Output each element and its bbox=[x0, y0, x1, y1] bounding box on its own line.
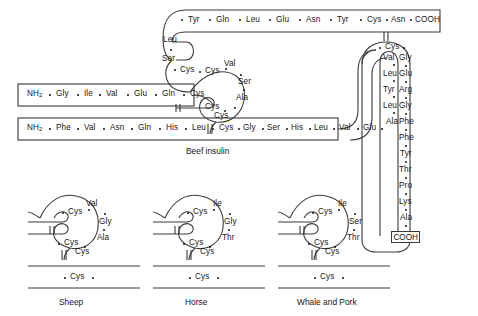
residue-loop-cys3: Cys bbox=[214, 112, 228, 120]
residue-a-cys2: Cys bbox=[190, 90, 204, 98]
residue-b-thr: Thr bbox=[399, 166, 412, 174]
insulin-structure-figure: Tyr Gln Leu Glu Asn Tyr Cys Asn COOH Leu… bbox=[0, 0, 478, 316]
residue-a-gln: Gln bbox=[216, 16, 229, 24]
whale-residue-cys4: Cys bbox=[320, 273, 334, 281]
residue-b-gly2: Gly bbox=[399, 54, 412, 62]
residue-a-tyr2: Tyr bbox=[337, 16, 349, 24]
residue-a-glu: Glu bbox=[276, 16, 289, 24]
residue-loop-ala: Ala bbox=[236, 94, 248, 102]
residue-loop-cys1: Cys bbox=[205, 67, 219, 75]
residue-b-gly3: Gly bbox=[399, 102, 412, 110]
residue-b-leu4: Leu bbox=[383, 70, 397, 78]
horse-residue-cys4: Cys bbox=[195, 273, 209, 281]
residue-b-tyr: Tyr bbox=[383, 86, 395, 94]
whale-residue-cys1: Cys bbox=[318, 208, 332, 216]
residue-a-leu-curve: Leu bbox=[163, 36, 177, 44]
whale-residue-var1: Ile bbox=[338, 200, 347, 208]
residue-b-pro: Pro bbox=[399, 182, 412, 190]
residue-b-asn: Asn bbox=[110, 124, 124, 132]
a-chain-c-terminus: COOH bbox=[415, 16, 440, 24]
residue-loop-cys2: Cys bbox=[205, 103, 219, 111]
residue-a-ser-curve: Ser bbox=[162, 55, 175, 63]
residue-b-gly: Gly bbox=[243, 124, 256, 132]
residue-b-gln: Gln bbox=[138, 124, 151, 132]
residue-b-arg: Arg bbox=[399, 86, 412, 94]
main-figure-label: Beef insulin bbox=[186, 146, 229, 156]
residue-b-cys-apex: Cys bbox=[385, 43, 399, 51]
sheep-residue-cys4: Cys bbox=[70, 273, 84, 281]
residue-a-cys: Cys bbox=[367, 16, 381, 24]
residue-b-val3: Val bbox=[383, 54, 395, 62]
residue-b-glu2: Glu bbox=[399, 70, 412, 78]
residue-loop-ser: Ser bbox=[238, 78, 251, 86]
whale-residue-var2: Ser bbox=[349, 218, 362, 226]
horse-residue-var3: Thr bbox=[222, 234, 235, 242]
sheep-residue-cys2: Cys bbox=[64, 239, 78, 247]
sheep-residue-var3: Ala bbox=[97, 234, 109, 242]
residue-b-phe2: Phe bbox=[399, 118, 414, 126]
residue-a-val: Val bbox=[106, 90, 118, 98]
whale-residue-cys3: Cys bbox=[325, 248, 339, 256]
b-chain-n-terminus: NH2 bbox=[27, 124, 43, 132]
species-caption-sheep: Sheep bbox=[59, 297, 83, 307]
residue-a-cys-curve: Cys bbox=[180, 66, 194, 74]
residue-b-his2: His bbox=[291, 124, 303, 132]
sheep-residue-var2: Gly bbox=[99, 218, 112, 226]
sheep-residue-var1: Val bbox=[86, 200, 98, 208]
whale-residue-var3: Thr bbox=[347, 234, 360, 242]
residue-b-val2: Val bbox=[339, 124, 351, 132]
horse-residue-cys3: Cys bbox=[200, 248, 214, 256]
species-caption-whale-pork: Whale and Pork bbox=[297, 297, 357, 307]
horse-residue-cys1: Cys bbox=[193, 208, 207, 216]
residue-a-asn: Asn bbox=[306, 16, 320, 24]
residue-b-leu: Leu bbox=[192, 124, 206, 132]
residue-a-ile: Ile bbox=[84, 90, 93, 98]
residue-b-leu2: Leu bbox=[314, 124, 328, 132]
residue-b-glu: Glu bbox=[363, 124, 376, 132]
residue-a-tyr: Tyr bbox=[188, 16, 200, 24]
residue-b-his: His bbox=[166, 124, 178, 132]
residue-b-ala: Ala bbox=[386, 118, 398, 126]
residue-a-gly: Gly bbox=[56, 90, 69, 98]
residue-b-lys: Lys bbox=[399, 198, 412, 206]
residue-loop-val: Val bbox=[224, 60, 236, 68]
residue-a-glu2: Glu bbox=[134, 90, 147, 98]
sheep-residue-cys3: Cys bbox=[75, 248, 89, 256]
residue-b-val: Val bbox=[84, 124, 96, 132]
residue-b-cys: Cys bbox=[219, 124, 233, 132]
b-chain-c-terminus: COOH bbox=[391, 231, 420, 243]
residue-b-phe3: Phe bbox=[399, 134, 414, 142]
horse-residue-cys2: Cys bbox=[189, 239, 203, 247]
residue-b-ser: Ser bbox=[267, 124, 280, 132]
horse-residue-var2: Gly bbox=[224, 218, 237, 226]
whale-residue-cys2: Cys bbox=[314, 239, 328, 247]
residue-b-ala2: Ala bbox=[400, 214, 412, 222]
a-chain-n-terminus: NH2 bbox=[27, 90, 43, 98]
horse-residue-var1: Ile bbox=[213, 200, 222, 208]
residue-b-leu3: Leu bbox=[383, 102, 397, 110]
residue-b-tyr2: Tyr bbox=[400, 150, 412, 158]
residue-a-asn2: Asn bbox=[391, 16, 405, 24]
residue-b-phe: Phe bbox=[56, 124, 71, 132]
sheep-residue-cys1: Cys bbox=[68, 208, 82, 216]
species-caption-horse: Horse bbox=[185, 297, 207, 307]
residue-a-gln2: Gln bbox=[162, 90, 175, 98]
residue-a-leu: Leu bbox=[246, 16, 260, 24]
